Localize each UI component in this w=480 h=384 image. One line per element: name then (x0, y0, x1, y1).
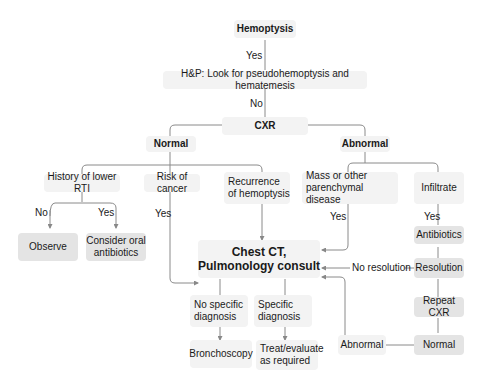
node-hemoptysis: Hemoptysis (234, 20, 296, 38)
node-repeat-cxr: Repeat CXR (414, 297, 464, 317)
edge-label-no: No (250, 98, 263, 110)
node-mass: Mass or other parenchymal disease (302, 172, 398, 204)
edge-label-yes: Yes (155, 208, 171, 220)
node-infiltrate: Infiltrate (414, 172, 464, 204)
edge-label-yes: Yes (330, 211, 346, 223)
node-resolution: Resolution (414, 258, 464, 278)
node-antibiotics: Antibiotics (414, 226, 464, 244)
node-history-lower-rti: History of lower RTI (44, 174, 120, 192)
node-oral-antibiotics: Consider oral antibiotics (86, 233, 146, 261)
edge-label-yes: Yes (98, 207, 114, 219)
node-abnormal: Abnormal (340, 136, 390, 152)
node-history-physical: H&P: Look for pseudohemoptysis and hemat… (163, 71, 367, 89)
node-observe: Observe (18, 233, 78, 261)
node-abnormal-repeat: Abnormal (338, 335, 386, 355)
node-normal: Normal (146, 136, 196, 152)
node-chest-ct: Chest CT, Pulmonology consult (198, 240, 320, 278)
node-risk-of-cancer: Risk of cancer (144, 174, 200, 192)
chest-ct-line1: Chest CT, (232, 245, 287, 259)
node-cxr: CXR (222, 117, 308, 135)
edge-label-yes: Yes (246, 50, 262, 62)
node-no-resolution: No resolution (352, 262, 411, 274)
node-treat-evaluate: Treat/evaluate as required (256, 340, 318, 370)
edge-label-yes: Yes (424, 211, 440, 223)
node-bronchoscopy: Bronchoscopy (190, 340, 252, 368)
node-recurrence: Recurrence of hemoptysis (224, 172, 290, 204)
node-no-specific-diagnosis: No specific diagnosis (190, 295, 248, 327)
edge-label-no: No (35, 207, 48, 219)
chest-ct-line2: Pulmonology consult (198, 259, 320, 273)
node-normal-repeat: Normal (414, 335, 464, 355)
node-specific-diagnosis: Specific diagnosis (254, 295, 312, 327)
